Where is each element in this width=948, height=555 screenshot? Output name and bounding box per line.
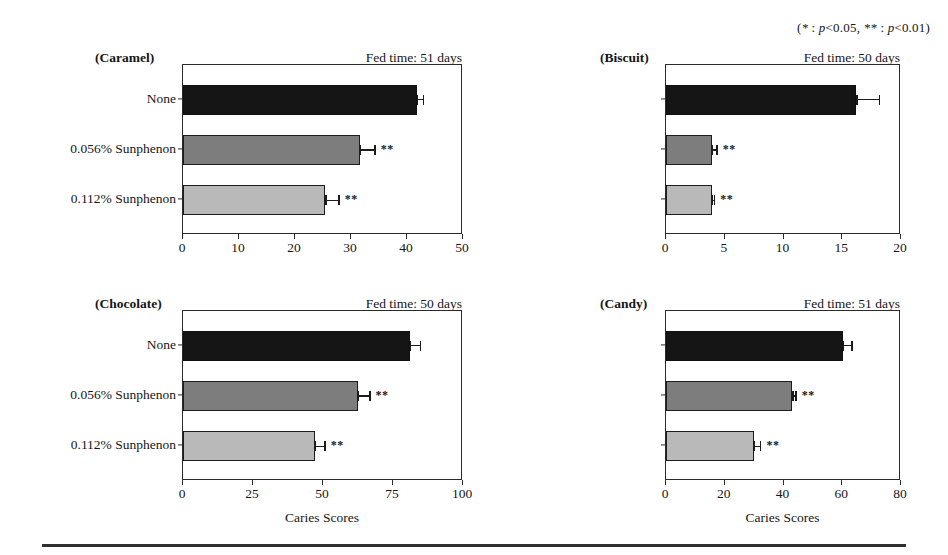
- error-bar-cap-left: [792, 391, 793, 401]
- x-axis-tick-label: 40: [776, 486, 790, 502]
- chart-panel-candy: (Candy)Fed time: 51 days****020406080Car…: [0, 0, 948, 555]
- x-axis-tick: [841, 480, 842, 485]
- error-bar-cap-right: [760, 441, 761, 451]
- x-axis-tick-label: 60: [835, 486, 849, 502]
- bar-row: [666, 331, 899, 361]
- y-axis-tick: [661, 344, 666, 345]
- plot-area: ****: [665, 310, 900, 480]
- x-axis-tick-label: 80: [893, 486, 907, 502]
- x-axis-title: Caries Scores: [746, 510, 820, 526]
- figure-canvas: (* : p<0.05, ** : p<0.01) (Caramel)Fed t…: [0, 0, 948, 555]
- bar-0-056--sunphenon: [666, 381, 792, 411]
- x-axis-tick: [783, 480, 784, 485]
- x-axis-tick: [724, 480, 725, 485]
- y-axis-tick: [661, 394, 666, 395]
- x-axis-tick-label: 20: [717, 486, 731, 502]
- bar-row: **: [666, 431, 899, 461]
- bar-none: [666, 331, 843, 361]
- x-axis-tick-label: 0: [662, 486, 669, 502]
- y-axis-tick: [661, 445, 666, 446]
- error-bar-cap-left: [754, 441, 755, 451]
- significance-marker: **: [766, 438, 779, 453]
- x-axis-tick: [900, 480, 901, 485]
- bar-0-112--sunphenon: [666, 431, 754, 461]
- error-bar-cap-right: [795, 391, 796, 401]
- error-bar-cap-right: [851, 341, 852, 351]
- bar-row: **: [666, 381, 899, 411]
- error-bar-cap-left: [843, 341, 844, 351]
- footer-divider: [42, 544, 906, 547]
- panel-title: (Candy): [600, 296, 647, 312]
- significance-marker: **: [802, 388, 815, 403]
- x-axis-tick: [665, 480, 666, 485]
- bar-group: ****: [666, 311, 899, 479]
